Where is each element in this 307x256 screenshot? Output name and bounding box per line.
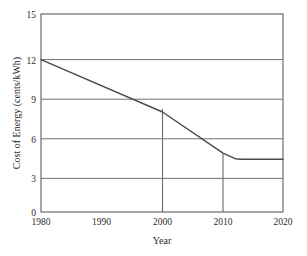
x-tick-label-2000: 2000 xyxy=(153,217,172,227)
x-tick-label-2010: 2010 xyxy=(214,217,233,227)
x-tick-label-1990: 1990 xyxy=(92,217,111,227)
y-tick-label-9: 9 xyxy=(31,95,36,105)
y-tick-label-3: 3 xyxy=(31,174,36,184)
x-tick-label-2020: 2020 xyxy=(274,217,293,227)
chart-container: 0 3 6 9 12 15 1980 1990 2000 2010 2020 Y… xyxy=(0,0,307,256)
x-axis-title: Year xyxy=(153,235,172,246)
x-tick-label-1980: 1980 xyxy=(32,217,51,227)
y-tick-label-12: 12 xyxy=(27,56,37,66)
y-tick-label-15: 15 xyxy=(27,10,37,20)
y-axis-tick-labels: 0 3 6 9 12 15 xyxy=(27,10,37,218)
y-axis-title: Cost of Energy (cents/kWh) xyxy=(11,57,23,169)
y-tick-label-6: 6 xyxy=(31,135,36,145)
x-axis-tick-labels: 1980 1990 2000 2010 2020 xyxy=(32,217,293,227)
cost-of-energy-line-chart: 0 3 6 9 12 15 1980 1990 2000 2010 2020 Y… xyxy=(0,0,307,256)
